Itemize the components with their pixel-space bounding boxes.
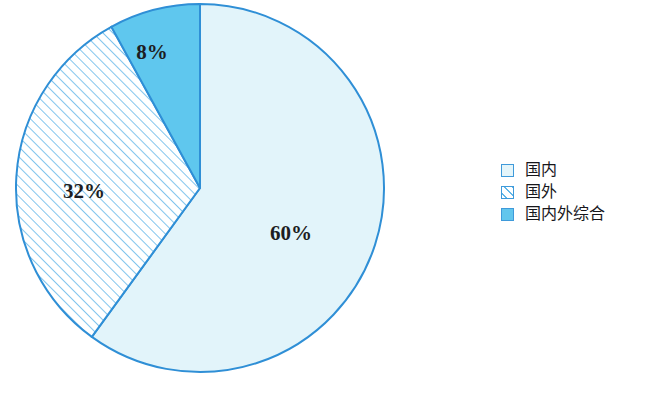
pie-label-overseas: 32% (63, 179, 105, 203)
legend-item-combined[interactable]: 国内外综合 (501, 203, 646, 225)
pie-label-domestic: 60% (270, 221, 312, 245)
legend-item-domestic[interactable]: 国内 (501, 159, 646, 181)
legend-item-overseas[interactable]: 国外 (501, 181, 646, 203)
legend-swatch-domestic-icon (501, 164, 514, 177)
legend-label-overseas: 国外 (525, 184, 557, 200)
legend-label-combined: 国内外综合 (525, 206, 605, 222)
pie-label-combined: 8% (136, 40, 168, 64)
legend-swatch-combined-icon (501, 208, 514, 221)
pie-chart: 60% 32% 8% 国内 国外 国内外综合 (0, 0, 648, 395)
legend-label-domestic: 国内 (525, 162, 557, 178)
legend-swatch-overseas-icon (501, 186, 514, 199)
chart-legend: 国内 国外 国内外综合 (501, 159, 646, 225)
